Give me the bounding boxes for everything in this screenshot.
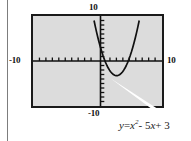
axis-label-right: 10	[167, 55, 176, 65]
page-margin-rule	[7, 0, 8, 141]
axis-label-left: -10	[9, 55, 20, 65]
graphing-calculator-screen	[31, 14, 164, 108]
plot-area	[33, 16, 162, 106]
figure-container: 10 -10 10 -10 y=x2- 5x+ 3	[0, 0, 191, 141]
graph-svg	[33, 16, 162, 106]
axis-label-top: 10	[89, 2, 98, 12]
equation-caption: y=x2- 5x+ 3	[119, 118, 170, 131]
equation-term3-constant: + 3	[155, 119, 169, 131]
equation-term2-coefficient: - 5	[139, 119, 151, 131]
axis-label-bottom: -10	[88, 108, 99, 118]
